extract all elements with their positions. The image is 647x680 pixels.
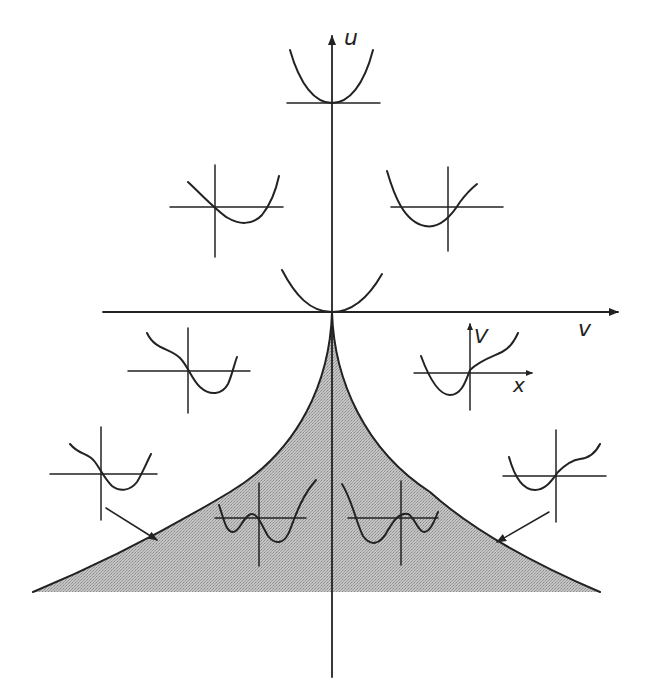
inset-potential-label: V (474, 324, 489, 348)
bifurcation-region (33, 312, 600, 592)
cusp-catastrophe-diagram: u v V x (0, 0, 647, 680)
inset-upper-right (387, 167, 503, 251)
v-axis-label: v (578, 316, 592, 341)
inset-top (287, 50, 380, 103)
arrow-to-right-fold (497, 512, 549, 542)
inset-lower-right (497, 430, 606, 542)
inset-mid-right: V x (414, 324, 532, 410)
inset-state-label: x (512, 373, 525, 397)
inset-upper-left (170, 165, 283, 257)
inset-lower-left (50, 427, 157, 540)
inset-mid-left (128, 328, 250, 413)
arrow-to-left-fold (106, 508, 157, 540)
u-axis-label: u (344, 25, 358, 50)
